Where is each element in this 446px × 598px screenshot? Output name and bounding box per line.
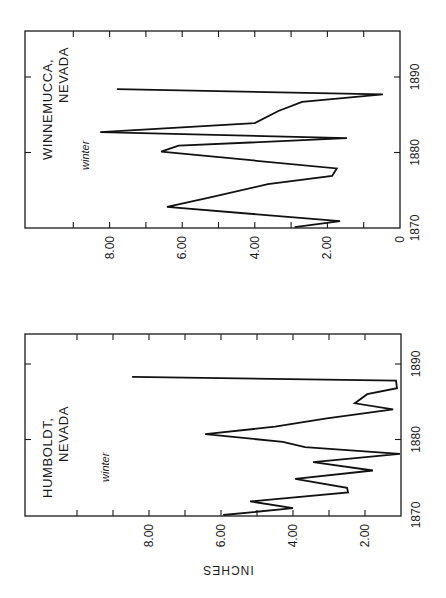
- inch-tick-label: 2.00: [320, 236, 334, 260]
- y-axis-label: INCHES: [202, 563, 253, 577]
- axis-ticks: [25, 334, 401, 516]
- precipitation-line: [100, 89, 383, 227]
- humboldt-chart: 2.004.006.008.00187018801890 HUMBOLDT, N…: [25, 334, 423, 547]
- year-tick-label: 1890: [408, 63, 422, 90]
- winnemucca-chart: 02.004.006.008.00187018801890 WINNEMUCCA…: [25, 31, 422, 259]
- chart-title-line2: NEVADA: [56, 406, 71, 462]
- inch-tick-label: 6.00: [214, 524, 228, 548]
- season-label: winter: [79, 139, 91, 170]
- year-tick-label: 1870: [408, 214, 422, 241]
- figure-canvas: 02.004.006.008.00187018801890 WINNEMUCCA…: [0, 0, 446, 598]
- inch-tick-label: 4.00: [286, 524, 300, 548]
- axis-ticks: [25, 31, 400, 228]
- year-tick-label: 1880: [409, 426, 423, 453]
- inch-tick-label: 8.00: [103, 236, 117, 260]
- chart-title-line1: HUMBOLDT,: [40, 417, 55, 498]
- inch-tick-label: 8.00: [142, 524, 156, 548]
- inch-tick-label: 2.00: [358, 524, 372, 548]
- plot-frame: [25, 334, 401, 516]
- chart-title-line2: NEVADA: [56, 47, 71, 103]
- season-label: winter: [99, 451, 111, 482]
- year-tick-label: 1880: [408, 139, 422, 166]
- inch-tick-label: 4.00: [248, 236, 262, 260]
- precipitation-line: [132, 377, 400, 515]
- year-tick-label: 1870: [409, 501, 423, 528]
- plot-frame: [25, 31, 400, 228]
- inch-tick-label: 6.00: [175, 236, 189, 260]
- chart-title-line1: WINNEMUCCA,: [40, 59, 55, 160]
- year-tick-label: 1890: [409, 350, 423, 377]
- inch-tick-label: 0: [393, 236, 407, 243]
